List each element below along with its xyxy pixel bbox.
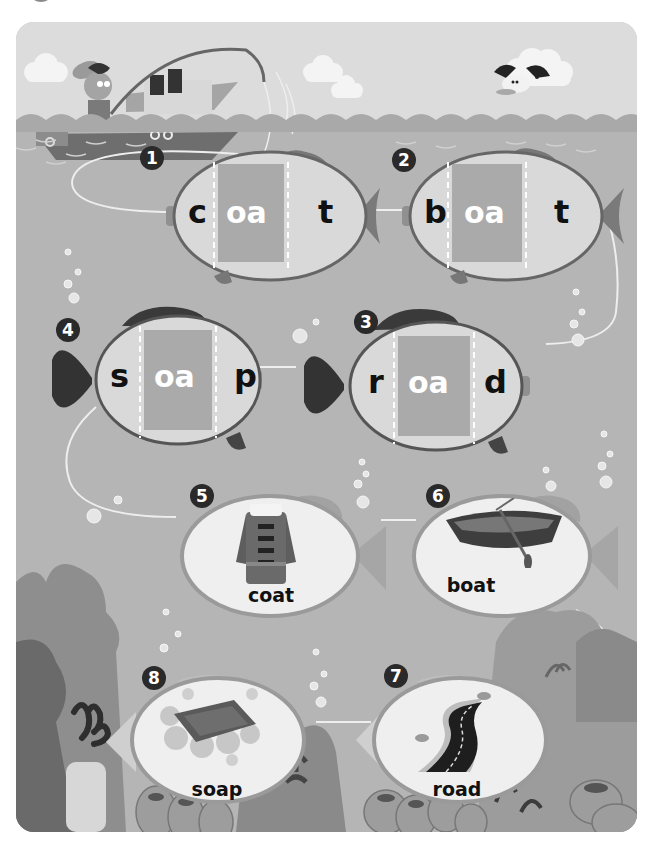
onset-letter: b xyxy=(424,196,447,228)
word-fish-2: 2 b oa t xyxy=(402,140,632,288)
word-fish-3: 3 r oa d xyxy=(304,300,544,456)
step-number-badge: 1 xyxy=(140,146,164,170)
step-number-badge: 6 xyxy=(426,484,450,508)
picture-word-label: road xyxy=(422,780,492,799)
rowboat-icon xyxy=(444,498,564,568)
coat-icon xyxy=(236,502,296,586)
word-fish-4: 4 s oa p xyxy=(52,304,282,454)
coda-letter: t xyxy=(554,196,569,228)
soap-icon xyxy=(156,686,266,766)
vowel-team: oa xyxy=(226,198,267,228)
road-icon xyxy=(410,688,500,778)
page-corner-tab xyxy=(28,0,54,2)
step-number-badge: 2 xyxy=(392,148,416,172)
vowel-team: oa xyxy=(154,362,195,392)
picture-fish-6: boat 6 xyxy=(408,492,618,622)
step-number-badge: 5 xyxy=(190,484,214,508)
worksheet-panel: 1 c oa t 2 b oa t xyxy=(16,22,637,832)
onset-letter: s xyxy=(110,360,129,392)
coda-letter: p xyxy=(234,360,257,392)
step-number-badge: 4 xyxy=(56,318,80,342)
cloud-icon xyxy=(24,53,68,82)
picture-fish-5: 5 coat xyxy=(176,492,386,622)
word-fish-1: 1 c oa t xyxy=(166,140,386,288)
step-number-badge: 3 xyxy=(354,310,378,334)
picture-word-label: soap xyxy=(182,780,252,799)
picture-word-label: boat xyxy=(436,576,506,595)
onset-letter: c xyxy=(188,196,207,228)
coda-letter: t xyxy=(318,196,333,228)
picture-fish-7: 7 road xyxy=(356,670,566,810)
vowel-team: oa xyxy=(464,198,505,228)
step-number-badge: 8 xyxy=(142,666,166,690)
cloud-icon xyxy=(303,55,343,82)
coda-letter: d xyxy=(484,366,507,398)
step-number-badge: 7 xyxy=(384,664,408,688)
picture-fish-8: 8 soap xyxy=(106,672,326,808)
picture-word-label: coat xyxy=(236,586,306,605)
onset-letter: r xyxy=(368,366,384,398)
vowel-team: oa xyxy=(408,368,449,398)
